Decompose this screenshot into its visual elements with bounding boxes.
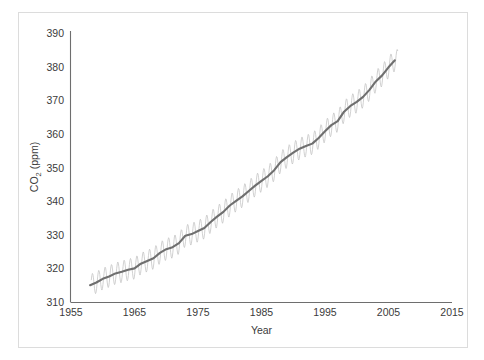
x-tick-label: 2005 xyxy=(377,306,401,318)
series-monthly-co2 xyxy=(91,49,397,293)
y-tick-label: 320 xyxy=(46,262,64,274)
y-tick-label: 370 xyxy=(46,94,64,106)
x-tick-label: 1975 xyxy=(186,306,210,318)
y-tick-label: 380 xyxy=(46,61,64,73)
co2-line-chart: 310 320 330 340 350 360 370 380 390 1955… xyxy=(0,0,484,360)
x-axis-title: Year xyxy=(251,324,273,336)
y-tick-label: 330 xyxy=(46,229,64,241)
x-tick-label: 1965 xyxy=(123,306,147,318)
x-tick-label: 2015 xyxy=(440,306,464,318)
x-tick-label: 1995 xyxy=(313,306,337,318)
y-axis-title-unit: (ppm) xyxy=(28,142,40,172)
y-tick-labels: 310 320 330 340 350 360 370 380 390 xyxy=(46,27,64,308)
x-tick-label: 1955 xyxy=(59,306,83,318)
y-tick-label: 340 xyxy=(46,195,64,207)
y-axis-title: CO2 (ppm) xyxy=(28,142,43,192)
y-tick-label: 390 xyxy=(46,27,64,39)
x-tick-labels: 1955 1965 1975 1985 1995 2005 2015 xyxy=(59,306,464,318)
y-tick-label: 350 xyxy=(46,162,64,174)
series-trend-co2 xyxy=(90,60,395,285)
chart-figure-root: 310 320 330 340 350 360 370 380 390 1955… xyxy=(0,0,484,360)
y-axis-title-main: CO xyxy=(28,176,40,192)
y-tick-label: 360 xyxy=(46,128,64,140)
svg-text:CO2 (ppm): CO2 (ppm) xyxy=(28,142,43,192)
x-tick-label: 1985 xyxy=(250,306,274,318)
